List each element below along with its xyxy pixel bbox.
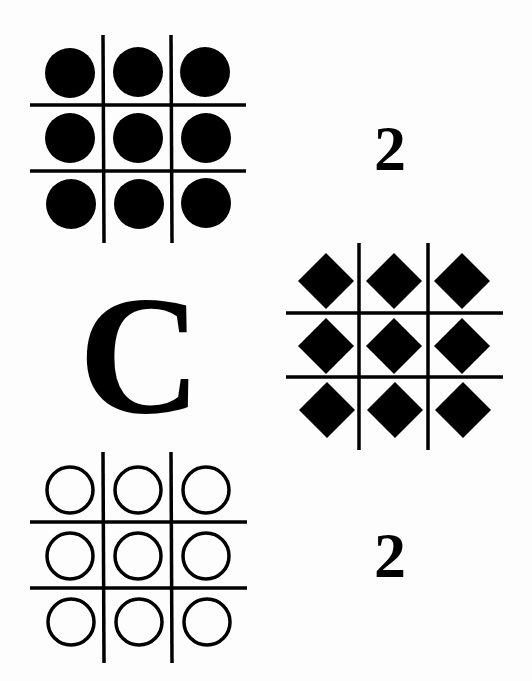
top-number-label: 2 <box>340 117 440 181</box>
bottom-number-label: 2 <box>340 524 440 588</box>
diamond-grid <box>266 220 526 460</box>
diamond-grid-graphic <box>266 220 526 460</box>
outline-circle-grid <box>0 440 260 681</box>
letter-label: C <box>70 270 210 440</box>
outline-circle-grid-graphic <box>0 440 260 681</box>
filled-circle-grid-graphic <box>0 0 260 250</box>
filled-circle-grid <box>0 0 260 250</box>
